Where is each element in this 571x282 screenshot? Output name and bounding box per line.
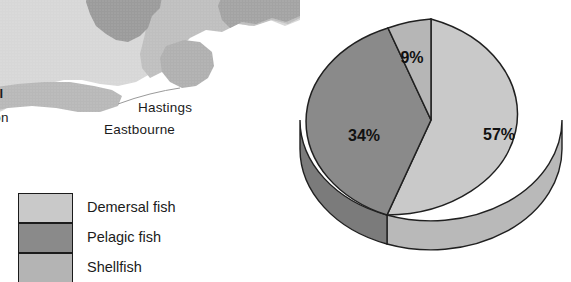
map-label-arundel: del — [0, 86, 3, 101]
chart-legend: Demersal fish Pelagic fish Shellfish — [18, 192, 176, 282]
legend-item-shellfish: Shellfish — [18, 252, 176, 282]
pie-label-shellfish: 9% — [400, 49, 423, 66]
map-label-hastings: Hastings — [138, 100, 192, 115]
legend-label-pelagic-fish: Pelagic fish — [87, 229, 161, 245]
legend-swatch-demersal-fish — [18, 193, 73, 223]
legend-item-pelagic-fish: Pelagic fish — [18, 222, 176, 252]
map-label-brighton: ghton — [0, 110, 9, 125]
legend-swatch-pelagic-fish — [18, 223, 73, 253]
figure-root: del ghton Hastings Eastbourne Demersal f… — [0, 0, 571, 282]
legend-swatch-shellfish — [18, 253, 73, 282]
pie-chart-svg: 57% 34% 9% — [292, 8, 571, 282]
legend-item-demersal-fish: Demersal fish — [18, 192, 176, 222]
pie-label-demersal-fish: 57% — [483, 126, 515, 143]
coast-map: del ghton Hastings Eastbourne — [0, 0, 300, 160]
legend-label-shellfish: Shellfish — [87, 259, 142, 275]
map-label-eastbourne: Eastbourne — [104, 122, 175, 137]
legend-label-demersal-fish: Demersal fish — [87, 199, 176, 215]
pie-label-pelagic-fish: 34% — [348, 127, 380, 144]
pie-chart: 57% 34% 9% — [292, 8, 571, 282]
